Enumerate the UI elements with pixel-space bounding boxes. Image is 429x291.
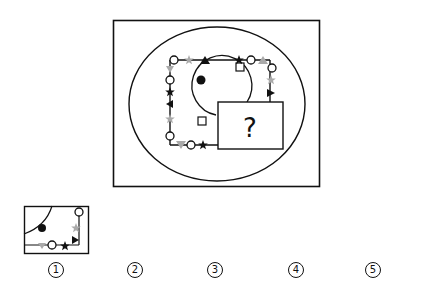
question-mark: ? — [243, 113, 257, 143]
circle-icon — [166, 132, 174, 140]
option-1-label[interactable]: 1 — [48, 262, 64, 278]
option-2-label[interactable]: 2 — [127, 262, 143, 278]
puzzle-figure: ? — [0, 0, 429, 291]
option-3-label[interactable]: 3 — [207, 262, 223, 278]
option-4-label[interactable]: 4 — [288, 262, 304, 278]
circle-icon — [247, 56, 255, 64]
circle-icon — [75, 208, 83, 216]
black-dot-icon — [197, 76, 206, 85]
black-dot-icon — [38, 224, 46, 232]
option-5-label[interactable]: 5 — [365, 262, 381, 278]
circle-icon — [268, 64, 276, 72]
circle-icon — [48, 241, 56, 249]
circle-icon — [170, 56, 178, 64]
circle-icon — [166, 76, 174, 84]
option-1-figure[interactable] — [24, 206, 89, 254]
square-icon — [236, 63, 244, 71]
square-icon — [198, 117, 206, 125]
main-frame — [114, 21, 320, 187]
circle-icon — [187, 141, 195, 149]
